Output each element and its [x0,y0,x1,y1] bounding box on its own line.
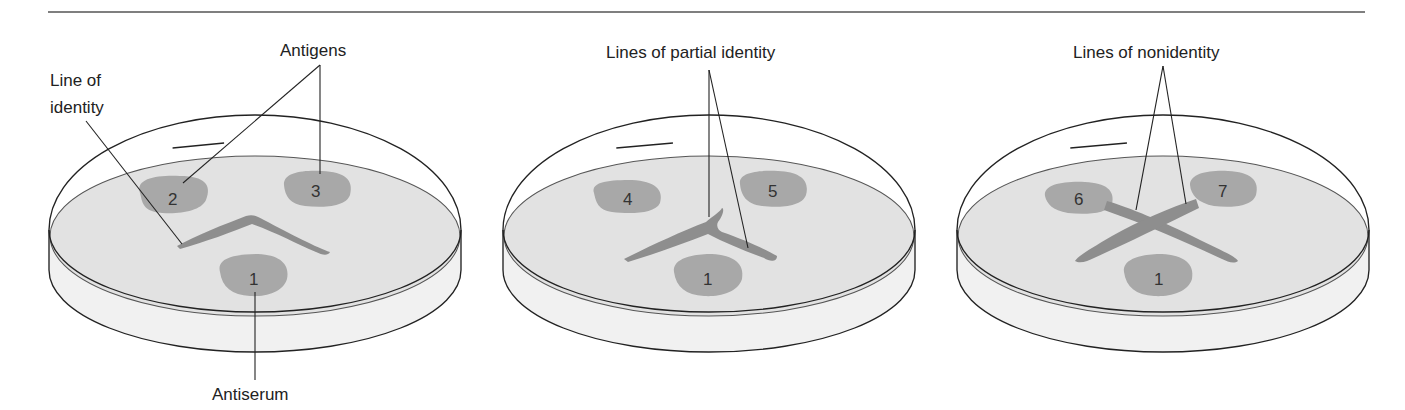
well-label-6: 6 [1074,190,1083,209]
panel-partial-identity: 4 5 1 Lines of partial identity [503,43,915,352]
well-label-2: 2 [168,190,177,209]
well-label-5: 5 [768,182,777,201]
partial-identity-label: Lines of partial identity [606,43,776,62]
line-of-identity-label-2: identity [50,98,104,117]
line-of-identity-label-1: Line of [50,71,101,90]
well-label-1: 1 [249,270,258,289]
nonidentity-label: Lines of nonidentity [1073,43,1220,62]
immunodiffusion-figure: 2 3 1 Antigens Line of identity Antiseru… [0,0,1405,410]
well-label-1: 1 [1154,270,1163,289]
antigens-label: Antigens [280,41,346,60]
panel-identity: 2 3 1 Antigens Line of identity Antiseru… [49,41,461,404]
antiserum-label: Antiserum [212,385,289,404]
well-label-7: 7 [1218,182,1227,201]
panel-nonidentity: 6 7 1 Lines of nonidentity [957,43,1369,352]
well-label-4: 4 [623,190,632,209]
well-label-1: 1 [703,270,712,289]
well-label-3: 3 [311,182,320,201]
petri-dish [957,115,1369,352]
